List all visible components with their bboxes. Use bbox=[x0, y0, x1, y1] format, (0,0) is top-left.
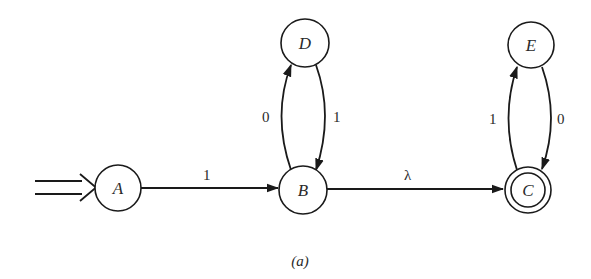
transition-a-b: 1 bbox=[141, 167, 278, 188]
state-label: C bbox=[522, 181, 534, 200]
transition-label: 0 bbox=[262, 109, 270, 125]
transition-c-e: 1 bbox=[489, 67, 517, 170]
state-e: E bbox=[508, 22, 554, 68]
transition-label: 1 bbox=[333, 109, 341, 125]
state-d: D bbox=[281, 19, 329, 67]
state-b: B bbox=[279, 166, 327, 214]
transition-d-b: 1 bbox=[316, 65, 341, 170]
transition-e-c: 0 bbox=[542, 67, 565, 169]
transition-label: 1 bbox=[489, 111, 497, 127]
state-a: A bbox=[95, 165, 141, 211]
state-label: B bbox=[298, 181, 309, 200]
transition-label: 0 bbox=[557, 111, 565, 127]
transition-b-c: λ bbox=[327, 167, 503, 189]
transition-b-d: 0 bbox=[262, 65, 291, 170]
state-label: E bbox=[525, 36, 537, 55]
transition-label: λ bbox=[404, 167, 412, 183]
state-c-accepting: C bbox=[505, 167, 551, 213]
transition-label: 1 bbox=[203, 167, 211, 183]
figure-caption: (a) bbox=[291, 253, 309, 270]
state-label: D bbox=[298, 34, 312, 53]
state-label: A bbox=[112, 179, 124, 198]
automaton-diagram: 1 0 1 λ 1 0 A B C D E bbox=[0, 0, 591, 279]
start-arrow-icon bbox=[35, 174, 96, 201]
